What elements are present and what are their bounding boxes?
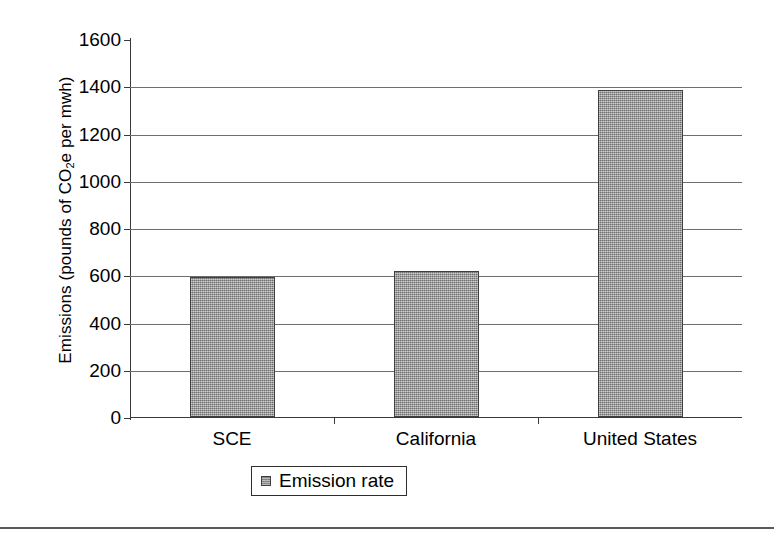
x-axis-category-label: SCE	[212, 428, 251, 450]
y-axis-tick	[124, 229, 130, 230]
x-axis-category-label: United States	[583, 428, 697, 450]
bar-california	[394, 271, 479, 417]
x-axis-tick	[334, 418, 335, 424]
gridline	[130, 87, 742, 88]
legend-swatch-icon	[261, 476, 271, 486]
y-axis-tick	[124, 276, 130, 277]
y-axis-title: Emissions (pounds of CO2e per mwh)	[44, 10, 88, 430]
x-axis-tick	[538, 418, 539, 424]
bar-chart-figure: Emissions (pounds of CO2e per mwh) 02004…	[0, 0, 774, 536]
y-axis-tick	[124, 371, 130, 372]
footer-divider	[0, 527, 774, 529]
bar-sce	[190, 277, 275, 417]
y-axis-tick	[124, 135, 130, 136]
y-axis-tick	[124, 182, 130, 183]
y-axis-tick-label: 600	[89, 265, 121, 287]
y-axis-tick	[124, 40, 130, 41]
plot-area: 02004006008001000120014001600 SCECalifor…	[130, 40, 742, 418]
y-axis-tick-label: 0	[110, 407, 121, 429]
y-axis-tick-label: 1600	[79, 29, 121, 51]
y-axis-tick	[124, 418, 130, 419]
chart-legend: Emission rate	[251, 466, 407, 496]
y-axis-tick-label: 1000	[79, 171, 121, 193]
y-axis-tick-label: 200	[89, 360, 121, 382]
y-axis-title-subscript: 2	[64, 162, 76, 168]
bar-united-states	[598, 90, 683, 417]
x-axis-line	[130, 417, 742, 418]
y-axis-title-text: Emissions (pounds of CO2e per mwh)	[56, 76, 76, 363]
y-axis-tick-label: 800	[89, 218, 121, 240]
legend-label: Emission rate	[279, 471, 394, 490]
y-axis-tick	[124, 87, 130, 88]
x-axis-category-label: California	[396, 428, 476, 450]
y-axis-tick-label: 1400	[79, 76, 121, 98]
y-axis-tick-label: 400	[89, 313, 121, 335]
y-axis-tick	[124, 324, 130, 325]
y-axis-tick-label: 1200	[79, 124, 121, 146]
